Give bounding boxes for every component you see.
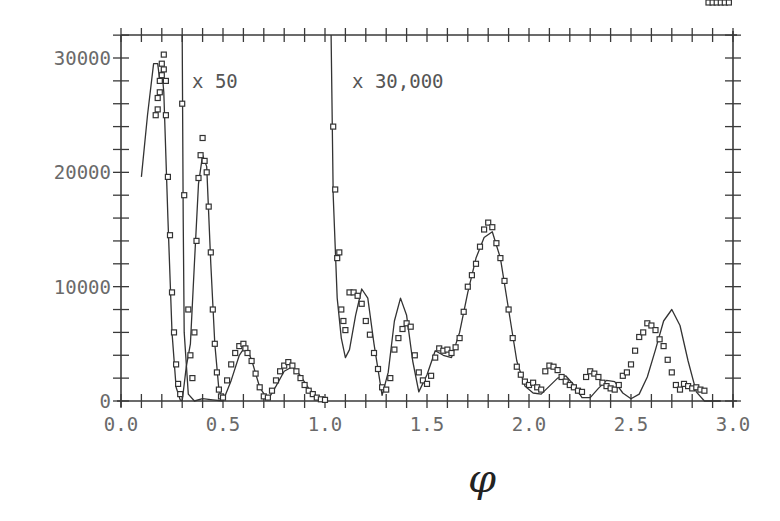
data-point (678, 387, 683, 392)
data-point (253, 371, 258, 376)
data-point (216, 387, 221, 392)
data-point (596, 375, 601, 380)
x-tick-label: 2.0 (512, 413, 546, 435)
data-point (208, 250, 213, 255)
data-point (510, 336, 515, 341)
data-point (367, 332, 372, 337)
x-tick-label: 1.5 (410, 413, 444, 435)
theory-line (182, 155, 223, 401)
data-point (182, 193, 187, 198)
data-point (274, 378, 279, 383)
data-point (194, 238, 199, 243)
data-point (502, 278, 507, 283)
data-point (518, 372, 523, 377)
data-point (339, 307, 344, 312)
data-point (490, 225, 495, 230)
x-tick-label: 0.5 (206, 413, 240, 435)
data-point (176, 381, 181, 386)
data-point (514, 364, 519, 369)
data-point (457, 336, 462, 341)
data-point (192, 330, 197, 335)
data-point (233, 351, 238, 356)
data-point (584, 375, 589, 380)
data-point (498, 256, 503, 261)
data-point (188, 353, 193, 358)
data-point (539, 387, 544, 392)
data-point (196, 176, 201, 181)
x-tick-label: 2.5 (614, 413, 648, 435)
x-tick-label: 0.0 (104, 413, 138, 435)
data-point (429, 373, 434, 378)
data-point (335, 256, 340, 261)
data-point (323, 397, 328, 402)
y-tick-label: 20000 (54, 161, 111, 183)
data-point (469, 273, 474, 278)
data-point (214, 370, 219, 375)
data-point (174, 362, 179, 367)
y-tick-label: 30000 (54, 47, 111, 69)
data-point (580, 389, 585, 394)
experiment-markers (153, 0, 731, 402)
data-point (337, 250, 342, 255)
data-point (163, 78, 168, 83)
data-point (661, 344, 666, 349)
data-point (298, 376, 303, 381)
data-point (474, 261, 479, 266)
data-point (449, 351, 454, 356)
data-point (221, 395, 226, 400)
theory-line (141, 64, 182, 401)
data-point (341, 319, 346, 324)
data-point (157, 90, 162, 95)
x-tick-label: 3.0 (716, 413, 750, 435)
y-tick-label: 0 (100, 390, 111, 412)
data-point (290, 363, 295, 368)
data-point (372, 351, 377, 356)
data-point (396, 336, 401, 341)
data-point (482, 227, 487, 232)
data-point (229, 362, 234, 367)
data-point (555, 368, 560, 373)
data-point (363, 319, 368, 324)
data-point (178, 392, 183, 397)
data-point (669, 370, 674, 375)
data-point (172, 330, 177, 335)
data-point (206, 204, 211, 209)
data-point (333, 187, 338, 192)
data-point (425, 381, 430, 386)
data-point (624, 370, 629, 375)
data-point (278, 369, 283, 374)
data-point (161, 67, 166, 72)
data-point (478, 244, 483, 249)
data-point (257, 385, 262, 390)
data-point (702, 388, 707, 393)
data-point (204, 170, 209, 175)
data-point (359, 301, 364, 306)
data-point (168, 233, 173, 238)
data-point (202, 158, 207, 163)
data-point (392, 347, 397, 352)
data-point (416, 370, 421, 375)
data-point (376, 367, 381, 372)
data-point (163, 113, 168, 118)
data-point (665, 357, 670, 362)
data-point (225, 378, 230, 383)
data-point (653, 328, 658, 333)
data-point (198, 153, 203, 158)
data-point (186, 307, 191, 312)
data-point (155, 96, 160, 101)
data-point (641, 330, 646, 335)
data-point (245, 351, 250, 356)
data-point (180, 101, 185, 106)
data-point (265, 395, 270, 400)
x-axis-label: φ (468, 455, 496, 501)
data-point (633, 348, 638, 353)
data-point (331, 124, 336, 129)
annotation-x30000: x 30,000 (352, 70, 444, 92)
data-point (408, 324, 413, 329)
data-point (616, 383, 621, 388)
data-point (388, 376, 393, 381)
y-axis-tick-labels: 0100002000030000 (54, 47, 111, 412)
data-point (210, 307, 215, 312)
x-axis-tick-labels: 0.00.51.01.52.02.53.0 (104, 413, 750, 435)
data-point (543, 369, 548, 374)
